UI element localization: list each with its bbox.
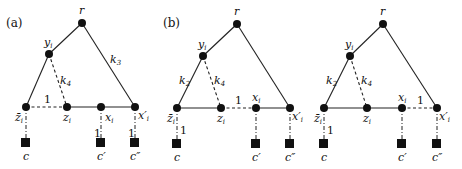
label-weight-top: 1 [235,94,242,107]
label-zbar: z̄i [166,112,175,126]
label-z: zi [216,112,225,126]
node-z [217,104,225,112]
label-z: zi [362,112,371,126]
node-r [379,20,387,28]
label-weight-x: 1 [94,127,101,140]
node-x [252,104,260,112]
terminal-c [319,139,328,148]
node-zbar [22,103,30,111]
label-k4: k4 [214,74,225,88]
label-k4: k4 [60,74,71,88]
terminal-c [172,139,181,148]
label-weight-c: 1 [180,124,187,137]
node-z [363,104,371,112]
node-x [398,104,406,112]
edge-r-xprime [82,23,135,107]
panel-c: r yi z̄i zi xi x′i c c′ c″ k2 k4 1 1 [313,5,450,164]
label-weight-top: 1 [44,93,51,106]
label-zbar: z̄i [14,111,23,125]
node-r [233,20,241,28]
label-y: yi [344,38,353,52]
terminal-cprime [251,139,260,148]
node-z [63,103,71,111]
label-weight-top: 1 [417,94,424,107]
label-weight-xprime: 1 [128,127,135,140]
label-x: xi [398,91,406,105]
panel-label: (b) [163,16,180,30]
node-zbar [320,104,328,112]
edge-r-xprime [237,24,290,108]
label-r: r [380,5,386,18]
label-cprime: c′ [97,150,106,163]
label-cprime: c′ [398,151,407,164]
terminal-cdouble [432,139,441,148]
label-cdouble: c″ [432,151,443,164]
panel-a: (a) r yi z̄i zi xi x′i c c′ c″ k3 k4 1 [6,4,149,163]
label-r: r [79,4,85,17]
edge-r-y [49,23,82,54]
label-zbar: z̄i [313,112,322,126]
node-y [199,52,207,60]
edge-r-xprime [383,24,437,108]
label-z: zi [62,111,71,125]
label-y: yi [43,36,52,50]
node-y [45,50,53,58]
label-weight-c: 1 [327,124,334,137]
panel-b: (b) r yi z̄i zi xi x′i c c′ c″ k2 k4 1 1 [163,5,303,164]
terminal-cdouble [285,139,294,148]
label-y: yi [197,38,206,52]
edge-r-y [350,24,383,56]
label-xprime: x′i [138,109,149,123]
terminal-cprime [397,139,406,148]
label-cdouble: c″ [285,151,296,164]
node-x [97,103,105,111]
node-r [78,19,86,27]
label-x: xi [105,111,113,125]
label-xprime: x′i [439,110,450,124]
node-y [346,52,354,60]
edge-r-y [203,24,237,56]
label-r: r [234,5,240,18]
label-cprime: c′ [252,151,261,164]
label-xprime: x′i [292,110,303,124]
label-k2: k2 [179,74,191,88]
label-k2: k2 [326,74,338,88]
label-k4: k4 [361,74,372,88]
label-c: c [23,150,29,163]
label-x: xi [252,91,260,105]
graph-diagram: (a) r yi z̄i zi xi x′i c c′ c″ k3 k4 1 [0,0,462,169]
panel-label: (a) [6,16,23,30]
label-c: c [174,151,180,164]
node-zbar [173,104,181,112]
label-k3: k3 [110,53,122,67]
label-cdouble: c″ [130,150,141,163]
label-c: c [321,151,327,164]
terminal-c [21,138,30,147]
